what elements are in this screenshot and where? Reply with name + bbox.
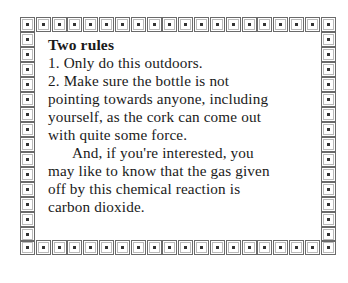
border-tile-icon xyxy=(289,17,304,32)
border-tile-icon xyxy=(20,122,35,137)
border-tile-icon xyxy=(20,47,35,62)
border-tile-icon xyxy=(20,17,35,32)
rule-1: 1. Only do this outdoors. xyxy=(48,54,320,72)
border-tile-icon xyxy=(210,240,225,255)
note-paragraph-cont: off by this chemical reaction is xyxy=(48,180,320,198)
border-tile-icon xyxy=(321,47,336,62)
border-tile-icon xyxy=(321,17,336,32)
border-tile-icon xyxy=(321,182,336,197)
border-tile-icon xyxy=(20,62,35,77)
border-tile-icon xyxy=(99,17,114,32)
rule-2: 2. Make sure the bottle is not xyxy=(48,72,320,90)
border-tile-icon xyxy=(115,240,130,255)
border-tile-icon xyxy=(321,212,336,227)
border-tile-icon xyxy=(131,240,146,255)
border-left xyxy=(20,32,35,240)
border-tile-icon xyxy=(321,227,336,242)
border-tile-icon xyxy=(67,240,82,255)
border-tile-icon xyxy=(226,17,241,32)
border-tile-icon xyxy=(226,240,241,255)
rule-2-cont: with quite some force. xyxy=(48,126,320,144)
border-bottom xyxy=(20,240,336,255)
border-tile-icon xyxy=(321,62,336,77)
border-tile-icon xyxy=(52,240,67,255)
border-tile-icon xyxy=(242,240,257,255)
border-tile-icon xyxy=(257,240,272,255)
border-tile-icon xyxy=(321,122,336,137)
border-tile-icon xyxy=(67,17,82,32)
border-tile-icon xyxy=(147,240,162,255)
border-tile-icon xyxy=(36,17,51,32)
card-title: Two rules xyxy=(48,36,320,54)
border-tile-icon xyxy=(321,92,336,107)
border-tile-icon xyxy=(194,17,209,32)
border-tile-icon xyxy=(162,17,177,32)
border-tile-icon xyxy=(210,17,225,32)
border-tile-icon xyxy=(178,17,193,32)
border-tile-icon xyxy=(257,17,272,32)
border-tile-icon xyxy=(273,240,288,255)
border-tile-icon xyxy=(321,240,336,255)
border-tile-icon xyxy=(194,240,209,255)
border-tile-icon xyxy=(20,77,35,92)
border-tile-icon xyxy=(83,17,98,32)
border-tile-icon xyxy=(20,227,35,242)
border-tile-icon xyxy=(20,240,35,255)
rule-2-cont: pointing towards anyone, including xyxy=(48,90,320,108)
border-tile-icon xyxy=(321,32,336,47)
border-tile-icon xyxy=(99,240,114,255)
border-tile-icon xyxy=(20,92,35,107)
border-tile-icon xyxy=(289,240,304,255)
border-tile-icon xyxy=(20,167,35,182)
border-tile-icon xyxy=(321,107,336,122)
border-tile-icon xyxy=(20,32,35,47)
border-tile-icon xyxy=(305,17,320,32)
border-tile-icon xyxy=(83,240,98,255)
border-right xyxy=(321,32,336,240)
border-tile-icon xyxy=(20,212,35,227)
border-tile-icon xyxy=(321,197,336,212)
border-tile-icon xyxy=(305,240,320,255)
border-tile-icon xyxy=(20,107,35,122)
border-tile-icon xyxy=(36,240,51,255)
border-tile-icon xyxy=(20,197,35,212)
rule-2-cont: yourself, as the cork can come out xyxy=(48,108,320,126)
border-tile-icon xyxy=(321,152,336,167)
card-text: Two rules 1. Only do this outdoors. 2. M… xyxy=(48,36,320,216)
note-paragraph-cont: carbon dioxide. xyxy=(48,198,320,216)
border-tile-icon xyxy=(20,137,35,152)
border-tile-icon xyxy=(321,167,336,182)
border-tile-icon xyxy=(20,182,35,197)
border-tile-icon xyxy=(20,152,35,167)
border-tile-icon xyxy=(273,17,288,32)
border-tile-icon xyxy=(178,240,193,255)
border-top xyxy=(20,17,336,32)
border-tile-icon xyxy=(321,77,336,92)
border-tile-icon xyxy=(242,17,257,32)
border-tile-icon xyxy=(131,17,146,32)
border-tile-icon xyxy=(162,240,177,255)
note-paragraph: And, if you're interested, you xyxy=(48,144,320,162)
border-tile-icon xyxy=(321,137,336,152)
note-paragraph-cont: may like to know that the gas given xyxy=(48,162,320,180)
border-tile-icon xyxy=(147,17,162,32)
border-tile-icon xyxy=(52,17,67,32)
border-tile-icon xyxy=(115,17,130,32)
